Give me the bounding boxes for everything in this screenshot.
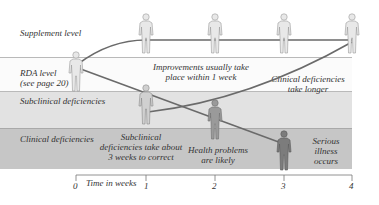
- tick-1: 1: [144, 181, 149, 191]
- line-recovery-path: [148, 42, 352, 112]
- person-icon-supplement-w2: [208, 14, 222, 53]
- person-icon-rda: [69, 52, 83, 91]
- person-icon-supplement-w4: [345, 14, 359, 53]
- tick-0: 0: [73, 181, 78, 191]
- line-decline-path: [78, 68, 284, 144]
- tick-3: 3: [281, 181, 286, 191]
- person-icon-health-problems: [208, 100, 222, 139]
- diagram-graphics: [0, 0, 379, 205]
- line-supplement-path: [78, 40, 352, 64]
- person-icon-serious-illness: [277, 131, 291, 170]
- tick-2: 2: [212, 181, 217, 191]
- person-icon-supplement-w1: [139, 14, 153, 53]
- axis-title: Time in weeks: [86, 178, 137, 188]
- tick-4: 4: [349, 181, 354, 191]
- person-icon-supplement-w3: [277, 14, 291, 53]
